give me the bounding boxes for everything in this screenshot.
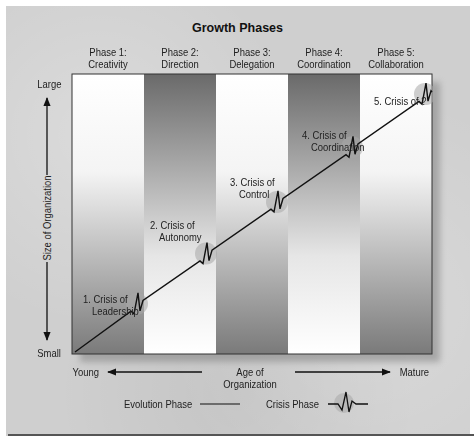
x-axis-left-label: Young [72,366,98,378]
phase-name: Creativity [76,58,141,70]
phase-number: Phase 1: [76,46,141,58]
crisis-label-4: 4. Crisis ofCoordination [302,129,365,153]
phase-name: Direction [148,58,213,70]
phase-band-3 [216,74,288,354]
legend-evolution-label: Evolution Phase [124,398,192,410]
phase-name: Collaboration [364,58,429,70]
x-axis-right-label: Mature [400,366,429,378]
crisis-label-5: 5. Crisis of ? [374,95,427,107]
phase-number: Phase 2: [148,46,213,58]
crisis-label-1: 1. Crisis ofLeadership [83,293,139,317]
crisis-name: Control [230,188,275,200]
y-axis-title: Size of Organization [41,168,53,269]
crisis-label-3: 3. Crisis ofControl [230,176,275,200]
crisis-title: 4. Crisis of [302,129,365,141]
phase-number: Phase 5: [364,46,429,58]
phase-number: Phase 4: [292,46,357,58]
phase-label-3: Phase 3:Delegation [220,46,285,70]
phase-band-2 [144,74,216,354]
y-axis-bottom-label: Small [37,347,61,359]
crisis-name: Autonomy [150,231,202,243]
phase-number: Phase 3: [220,46,285,58]
crisis-title: 1. Crisis of [83,293,139,305]
legend-crisis-label: Crisis Phase [266,398,319,410]
crisis-title: 2. Crisis of [150,219,202,231]
crisis-name: Leadership [83,305,139,317]
diagram-title: Growth Phases [0,21,475,35]
phase-label-2: Phase 2:Direction [148,46,213,70]
crisis-title: 3. Crisis of [230,176,275,188]
phase-name: Coordination [292,58,357,70]
phase-band-4 [288,74,360,354]
phase-label-4: Phase 4:Coordination [292,46,357,70]
y-axis-top-label: Large [37,78,61,90]
crisis-name: Coordination [302,141,365,153]
legend-crisis-icon [328,392,368,413]
phase-label-1: Phase 1:Creativity [76,46,141,70]
crisis-label-2: 2. Crisis ofAutonomy [150,219,202,243]
phase-label-5: Phase 5:Collaboration [364,46,429,70]
x-axis-title: Age of Organization [210,366,291,390]
phase-band-5 [360,74,432,354]
crisis-title: 5. Crisis of ? [374,95,427,107]
phase-name: Delegation [220,58,285,70]
